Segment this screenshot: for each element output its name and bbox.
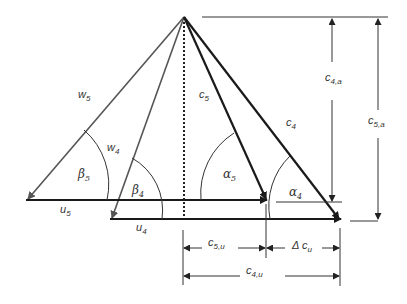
label-c5u: c5,u: [208, 236, 225, 251]
label-w4: w4: [107, 141, 120, 156]
label-c5: c5: [199, 88, 210, 103]
label-u4: u4: [136, 221, 147, 236]
label-c4a: c4,a: [325, 71, 342, 86]
label-beta5: β5: [77, 167, 90, 183]
alpha4-arc: [269, 156, 290, 219]
label-w5: w5: [78, 88, 91, 103]
label-u5: u5: [60, 203, 71, 218]
label-c4u: c4,u: [246, 264, 263, 279]
w5-vector: [28, 17, 184, 199]
label-c4: c4: [286, 116, 297, 131]
label-alpha4: α4: [289, 185, 302, 201]
velocity-triangle-diagram: w5 w4 c5 c4 u5 u4 β5 β4 α5 α4 c4,a c5,a …: [0, 0, 407, 304]
beta5-arc: [84, 130, 109, 200]
w4-vector: [112, 17, 184, 218]
label-beta4: β4: [131, 183, 144, 199]
label-dcu: Δ cu: [291, 239, 313, 254]
label-alpha5: α5: [223, 167, 236, 183]
label-c5a: c5,a: [368, 114, 385, 129]
